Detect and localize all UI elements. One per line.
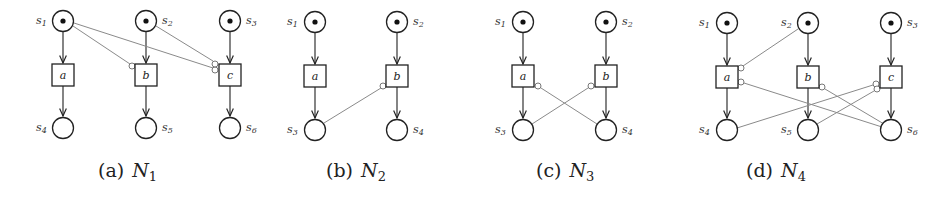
inhibitor-circle xyxy=(738,79,744,85)
panel-b: a b s1 s2 s3 s4 (b)N2 xyxy=(287,12,424,185)
place-label: s2 xyxy=(162,14,173,28)
transition-label: b xyxy=(804,71,811,84)
place-label: s1 xyxy=(495,15,506,29)
place-s4 xyxy=(596,120,617,141)
place-s4 xyxy=(387,120,408,141)
inhibitor-circle xyxy=(212,61,218,67)
place-label: s3 xyxy=(246,14,257,28)
place-label: s3 xyxy=(907,16,918,30)
place-label: s5 xyxy=(781,123,792,137)
transition-label: a xyxy=(724,71,731,84)
place-label: s4 xyxy=(699,123,710,137)
caption-d: (d)N4 xyxy=(746,159,806,184)
transition-label: c xyxy=(227,69,233,82)
place-s4 xyxy=(53,118,74,139)
place-label: s5 xyxy=(162,121,173,135)
place-s6 xyxy=(220,118,241,139)
token xyxy=(724,20,729,25)
token xyxy=(394,19,399,24)
inhibitor-arc-s4-a xyxy=(541,88,597,124)
place-label: s4 xyxy=(622,123,633,137)
inhibitor-circle xyxy=(212,67,218,73)
inhibitor-arc-s3-b xyxy=(324,88,381,123)
token xyxy=(603,19,608,24)
panel-a: a b c s1 s2 s3 s4 s5 s6 (a)N1 xyxy=(36,11,257,185)
token xyxy=(888,20,893,25)
inhibitor-arc-s5-c xyxy=(817,91,874,124)
place-label: s2 xyxy=(622,15,633,29)
caption-c: (c)N3 xyxy=(536,159,594,184)
place-s4 xyxy=(717,120,738,141)
transition-label: a xyxy=(312,70,319,83)
panel-d: a b c s1 s2 s3 s4 s5 s6 (d)N4 xyxy=(699,13,918,185)
place-s6 xyxy=(881,120,902,141)
token xyxy=(805,20,810,25)
token xyxy=(143,18,148,23)
place-label: s6 xyxy=(246,121,257,135)
transition-label: a xyxy=(520,70,527,83)
transition-label: b xyxy=(393,70,400,83)
transition-label: c xyxy=(888,71,894,84)
transition-label: a xyxy=(60,69,67,82)
inhibitor-arc-s3-b xyxy=(532,88,588,124)
place-s3 xyxy=(305,120,326,141)
place-label: s6 xyxy=(907,123,918,137)
transition-label: b xyxy=(602,70,609,83)
place-label: s4 xyxy=(36,121,47,135)
token xyxy=(227,18,232,23)
panel-c: a b s1 s2 s3 s4 (c)N3 xyxy=(495,12,633,185)
token xyxy=(312,19,317,24)
caption-a: (a)N1 xyxy=(98,159,157,184)
place-label: s3 xyxy=(287,123,298,137)
token xyxy=(520,19,525,24)
inhibitor-circle xyxy=(874,86,880,92)
place-label: s1 xyxy=(36,14,47,28)
inhibitor-circle xyxy=(380,83,386,89)
place-label: s3 xyxy=(495,123,506,137)
petri-net-figure: a b c s1 s2 s3 s4 s5 s6 (a)N1 a b s1 s2 … xyxy=(0,0,952,201)
inhibitor-arc-s2-c xyxy=(156,26,213,61)
place-s5 xyxy=(136,118,157,139)
inhibitor-circle xyxy=(129,63,135,69)
place-label: s4 xyxy=(413,123,424,137)
inhibitor-circle xyxy=(738,65,744,71)
place-label: s1 xyxy=(287,15,298,29)
place-s3 xyxy=(513,120,534,141)
place-s5 xyxy=(798,120,819,141)
inhibitor-circle xyxy=(588,83,594,89)
token xyxy=(60,18,65,23)
inhibitor-circle xyxy=(819,84,825,90)
place-label: s1 xyxy=(699,16,710,30)
place-label: s2 xyxy=(781,16,792,30)
caption-b: (b)N2 xyxy=(326,159,386,184)
transition-label: b xyxy=(142,69,149,82)
inhibitor-arc-s2-a xyxy=(743,29,798,66)
inhibitor-circle xyxy=(535,83,541,89)
place-label: s2 xyxy=(413,15,424,29)
